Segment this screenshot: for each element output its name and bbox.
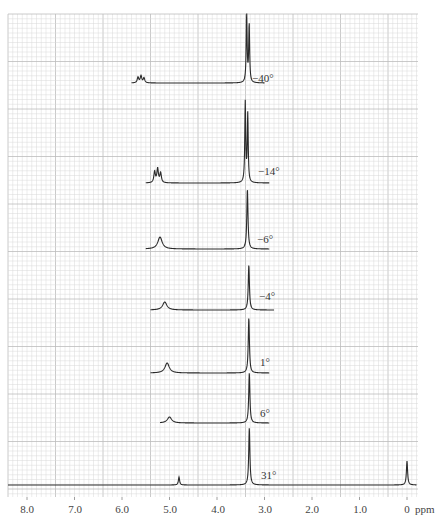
nmr-spectrum-chart: 8.0 7.0 6.0 5.0 4.0 3.0 2.0 1.0 0 ppm −4… bbox=[0, 0, 439, 525]
spectrum-trace bbox=[160, 373, 269, 423]
tick-label-8: 8.0 bbox=[20, 503, 34, 515]
temp-label-1: 1° bbox=[260, 356, 270, 368]
temp-label-minus-6: −6° bbox=[257, 233, 273, 245]
tick-label-7: 7.0 bbox=[68, 503, 82, 515]
tick-label-6: 6.0 bbox=[115, 503, 129, 515]
tick-label-3: 3.0 bbox=[258, 503, 272, 515]
temp-label-6: 6° bbox=[260, 407, 270, 419]
spectrum-trace bbox=[151, 319, 270, 373]
temp-label-minus-40: −40° bbox=[252, 72, 274, 84]
tick-label-2: 2.0 bbox=[305, 503, 319, 515]
temp-label-minus-4: −4° bbox=[259, 290, 275, 302]
spectrum-plot-area bbox=[0, 0, 439, 525]
grid-lines bbox=[8, 14, 418, 500]
x-axis-unit-label: ppm bbox=[415, 503, 435, 515]
temp-label-minus-14: −14° bbox=[258, 165, 280, 177]
tick-label-1: 1.0 bbox=[353, 503, 367, 515]
temp-label-31: 31° bbox=[261, 469, 276, 481]
tick-label-0: 0 bbox=[404, 503, 410, 515]
tick-label-5: 5.0 bbox=[163, 503, 177, 515]
tick-label-4: 4.0 bbox=[211, 503, 225, 515]
